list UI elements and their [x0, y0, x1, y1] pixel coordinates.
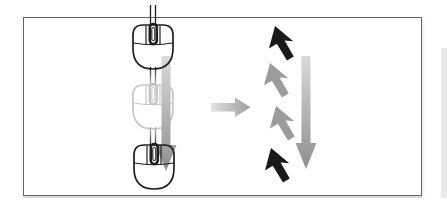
transition-right-arrow-icon — [211, 98, 251, 118]
figure-canvas — [0, 0, 447, 210]
pointer-cursor-icon-4 — [260, 144, 294, 186]
pointer-motion-down-arrow-icon — [296, 56, 317, 169]
page-background — [0, 0, 447, 210]
pointer-cursor-icon-2 — [259, 59, 293, 101]
pointer-cursor-icon-3 — [265, 102, 299, 144]
pointer-cursor-icon-1 — [264, 22, 298, 64]
